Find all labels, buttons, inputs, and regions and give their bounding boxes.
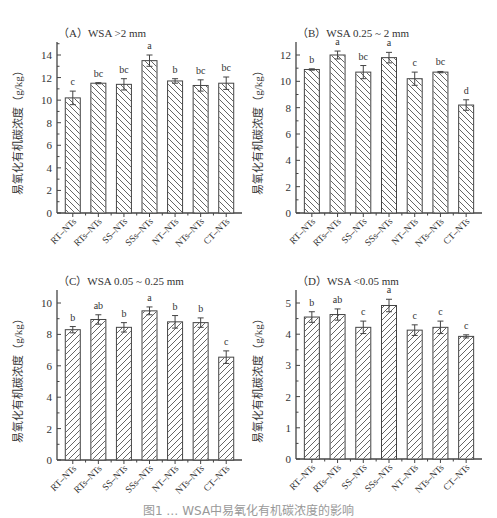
x-tick-label: CT–NTs xyxy=(441,462,471,492)
significance-letter: b xyxy=(70,312,75,323)
significance-letter: c xyxy=(412,310,417,321)
x-tick-label: RTs–NTs xyxy=(311,216,343,248)
y-tick-label: 0 xyxy=(47,454,53,466)
bar-hatch xyxy=(91,84,105,213)
significance-letter: c xyxy=(71,76,76,87)
bar-hatch xyxy=(382,58,396,212)
significance-letter: bc xyxy=(196,65,206,76)
y-tick-label: 4 xyxy=(47,162,53,174)
x-tick-label: NTs–NTs xyxy=(413,216,446,249)
bar-chart-b: 024681012易氧化有机碳浓度（g/kg）bRT–NTsaRTs–NTsbc… xyxy=(251,36,482,249)
significance-letter: a xyxy=(147,292,152,303)
bar-hatch xyxy=(219,84,233,213)
bar-hatch xyxy=(408,79,422,212)
y-tick-label: 1 xyxy=(286,422,292,434)
bar-hatch xyxy=(382,306,396,459)
bar-hatch xyxy=(194,86,208,213)
y-tick-label: 8 xyxy=(47,117,53,129)
y-tick-label: 6 xyxy=(47,139,53,151)
bar-chart-a: 02468101214易氧化有机碳浓度（g/kg）cRT–NTsbcRTs–NT… xyxy=(11,40,242,249)
y-tick-label: 5 xyxy=(286,297,292,309)
y-tick-label: 10 xyxy=(280,75,292,87)
bar-hatch xyxy=(356,73,370,213)
bar-hatch xyxy=(305,318,319,459)
y-tick-label: 12 xyxy=(280,49,291,61)
bar-hatch xyxy=(168,81,182,212)
x-tick-label: CT–NTs xyxy=(441,216,471,246)
y-tick-label: 4 xyxy=(286,154,292,166)
y-tick-label: 8 xyxy=(47,328,53,340)
significance-letter: c xyxy=(412,57,417,68)
bar-chart-d: 012345易氧化有机碳浓度（g/kg）bRT–NTsabRTs–NTscSS–… xyxy=(251,284,482,495)
x-tick-label: RTs–NTs xyxy=(72,463,104,495)
significance-letter: c xyxy=(361,306,366,317)
y-tick-label: 2 xyxy=(286,181,292,193)
y-tick-label: 14 xyxy=(41,49,53,61)
bar-hatch xyxy=(331,56,345,213)
significance-letter: b xyxy=(173,64,178,75)
y-tick-label: 6 xyxy=(47,360,53,372)
y-tick-label: 0 xyxy=(286,207,292,219)
x-tick-label: RTs–NTs xyxy=(311,462,343,494)
y-tick-label: 3 xyxy=(286,359,292,371)
bar-hatch xyxy=(66,330,80,459)
bar-hatch xyxy=(331,315,345,458)
y-axis-label: 易氧化有机碳浓度（g/kg） xyxy=(11,313,24,443)
significance-letter: b xyxy=(309,297,314,308)
y-tick-label: 12 xyxy=(41,72,52,84)
y-tick-label: 4 xyxy=(286,328,292,340)
bar-hatch xyxy=(219,358,233,460)
significance-letter: b xyxy=(198,303,203,314)
bar-hatch xyxy=(433,73,447,213)
significance-letter: a xyxy=(335,36,340,47)
bar-hatch xyxy=(194,323,208,459)
significance-letter: bc xyxy=(119,64,129,75)
y-tick-label: 0 xyxy=(47,207,53,219)
significance-letter: c xyxy=(464,320,469,331)
y-tick-label: 4 xyxy=(47,391,53,403)
significance-letter: b xyxy=(121,308,126,319)
y-tick-label: 10 xyxy=(41,94,53,106)
y-tick-label: 10 xyxy=(41,297,53,309)
significance-letter: c xyxy=(224,336,229,347)
x-tick-label: SSs–NTs xyxy=(363,462,395,494)
bar-hatch xyxy=(459,337,473,459)
y-tick-label: 2 xyxy=(47,184,53,196)
x-tick-label: CT–NTs xyxy=(202,216,232,246)
significance-letter: bc xyxy=(94,68,104,79)
significance-letter: a xyxy=(387,284,392,295)
bar-hatch xyxy=(143,311,157,459)
significance-letter: b xyxy=(173,301,178,312)
x-tick-label: SSs–NTs xyxy=(363,216,395,248)
significance-letter: bc xyxy=(221,62,231,73)
y-tick-label: 2 xyxy=(47,423,53,435)
bar-hatch xyxy=(117,328,131,460)
y-axis-label: 易氧化有机碳浓度（g/kg） xyxy=(251,313,264,443)
significance-letter: bc xyxy=(436,56,446,67)
y-axis-label: 易氧化有机碳浓度（g/kg） xyxy=(251,65,264,195)
significance-letter: ab xyxy=(333,294,342,305)
figure-caption: 图1 … WSA中易氧化有机碳浓度的影响 xyxy=(0,501,497,518)
bar-hatch xyxy=(66,98,80,212)
x-tick-label: SSs–NTs xyxy=(123,216,155,248)
x-tick-label: NTs–NTs xyxy=(173,463,206,496)
bar-hatch xyxy=(91,320,105,460)
significance-letter: b xyxy=(309,54,314,65)
bar-hatch xyxy=(168,322,182,459)
bar-hatch xyxy=(143,61,157,212)
x-tick-label: RTs–NTs xyxy=(72,216,104,248)
bar-hatch xyxy=(459,106,473,213)
significance-letter: a xyxy=(387,37,392,48)
x-tick-label: SSs–NTs xyxy=(123,463,155,495)
bar-hatch xyxy=(356,328,370,459)
bar-hatch xyxy=(408,331,422,459)
bar-hatch xyxy=(305,70,319,213)
y-axis-label: 易氧化有机碳浓度（g/kg） xyxy=(11,65,24,195)
y-tick-label: 6 xyxy=(286,128,292,140)
bar-hatch xyxy=(433,328,447,459)
y-tick-label: 2 xyxy=(286,391,292,403)
bar-hatch xyxy=(117,85,131,213)
x-tick-label: NTs–NTs xyxy=(413,462,446,495)
significance-letter: d xyxy=(464,85,469,96)
